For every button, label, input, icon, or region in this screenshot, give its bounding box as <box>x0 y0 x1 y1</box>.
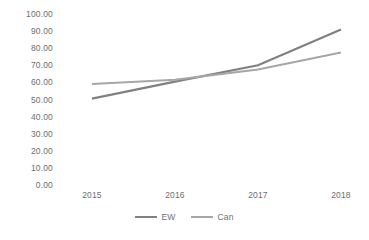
legend-swatch-can <box>191 216 213 218</box>
series-line-ew <box>92 29 341 98</box>
series-line-can <box>92 52 341 84</box>
legend-item-can[interactable]: Can <box>191 212 233 222</box>
line-chart: 100.0090.0080.0070.0060.0050.0040.0030.0… <box>0 0 369 240</box>
chart-legend: EW Can <box>0 212 369 222</box>
plot-area <box>0 0 369 240</box>
legend-label-ew: EW <box>161 212 175 222</box>
legend-label-can: Can <box>217 212 233 222</box>
legend-swatch-ew <box>135 216 157 218</box>
legend-item-ew[interactable]: EW <box>135 212 175 222</box>
